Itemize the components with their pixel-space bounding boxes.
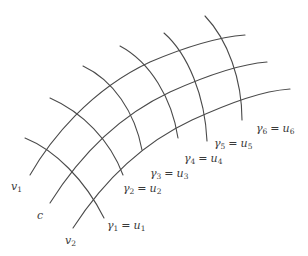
curve-gamma5 bbox=[164, 33, 207, 141]
label-gamma3: γ3=u3 bbox=[150, 168, 188, 181]
gamma4-rhs: u bbox=[211, 152, 218, 165]
gamma3-rhs-sub: 3 bbox=[184, 172, 189, 181]
gamma1-eq: = bbox=[121, 219, 130, 232]
curve-v2 bbox=[73, 89, 290, 228]
label-v2-sub: 2 bbox=[71, 239, 76, 248]
gamma2-lhs-sub: 2 bbox=[130, 187, 135, 196]
gamma1-rhs: u bbox=[134, 219, 141, 232]
label-gamma1: γ1=u1 bbox=[107, 220, 145, 233]
gamma2-rhs-sub: 2 bbox=[157, 187, 162, 196]
gamma3-eq: = bbox=[164, 167, 173, 180]
gamma3-lhs: γ bbox=[150, 167, 157, 180]
curve-gamma2 bbox=[50, 98, 123, 175]
label-v1: v1 bbox=[11, 181, 22, 194]
gamma1-lhs: γ bbox=[107, 219, 114, 232]
gamma4-lhs-sub: 4 bbox=[191, 157, 196, 166]
gamma2-rhs: u bbox=[150, 182, 157, 195]
gamma1-lhs-sub: 1 bbox=[114, 224, 119, 233]
gamma6-lhs-sub: 6 bbox=[263, 127, 268, 136]
gamma6-eq: = bbox=[270, 122, 279, 135]
label-gamma4: γ4=u4 bbox=[184, 153, 222, 166]
gamma5-rhs-sub: 5 bbox=[248, 142, 253, 151]
curve-gamma1 bbox=[25, 138, 104, 218]
label-gamma6: γ6=u6 bbox=[256, 123, 294, 136]
gamma6-lhs: γ bbox=[256, 122, 263, 135]
gamma5-lhs-sub: 5 bbox=[221, 142, 226, 151]
label-gamma5: γ5=u5 bbox=[214, 138, 252, 151]
gamma6-rhs-sub: 6 bbox=[290, 127, 295, 136]
gamma4-eq: = bbox=[198, 152, 207, 165]
gamma5-eq: = bbox=[228, 137, 237, 150]
label-c-base: c bbox=[37, 209, 43, 222]
gamma5-rhs: u bbox=[241, 137, 248, 150]
gamma4-rhs-sub: 4 bbox=[218, 157, 223, 166]
label-v2: v2 bbox=[65, 235, 76, 248]
label-c: c bbox=[37, 210, 43, 221]
gamma6-rhs: u bbox=[283, 122, 290, 135]
label-gamma2: γ2=u2 bbox=[123, 183, 161, 196]
gamma3-rhs: u bbox=[177, 167, 184, 180]
gamma2-eq: = bbox=[137, 182, 146, 195]
gamma3-lhs-sub: 3 bbox=[157, 172, 162, 181]
gamma5-lhs: γ bbox=[214, 137, 221, 150]
label-v1-sub: 1 bbox=[17, 185, 22, 194]
gamma2-lhs: γ bbox=[123, 182, 130, 195]
gamma1-rhs-sub: 1 bbox=[141, 224, 146, 233]
gamma4-lhs: γ bbox=[184, 152, 191, 165]
curve-gamma3 bbox=[83, 66, 142, 150]
